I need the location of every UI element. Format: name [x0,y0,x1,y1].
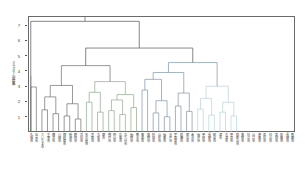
leaf-label: 神戸市 [107,133,110,142]
leaf-label: 川崎市 [57,133,60,142]
leaf-label: 松山市 [268,133,271,142]
dendrogram-link [164,117,170,132]
leaf-label: 岐阜市 [213,133,216,142]
dendrogram-link [231,116,237,132]
dendrogram-link [187,111,193,132]
leaf-label: 福島市 [163,133,166,142]
leaf-label: 仙台市 [35,133,38,142]
y-axis-tick-label: 7 [12,23,20,28]
dendrogram-link [86,102,92,132]
dendrogram-link [67,104,78,119]
dendrogram-link [209,115,215,132]
dendrogram-link [131,108,137,132]
leaf-label: 堺市 [102,133,105,139]
leaf-label: 相模原市 [63,133,66,145]
dendrogram-link [86,48,193,66]
leaf-label: 大阪市 [96,133,99,142]
leaf-label: 前橋市 [179,133,182,142]
dendrogram-tree [28,16,295,132]
leaf-label: 横浜市 [51,133,54,142]
y-axis-tick-mark [25,55,27,56]
y-axis-tick-label: 6 [12,38,20,43]
dendrogram-link [50,85,72,103]
dendrogram-link [42,110,48,132]
leaf-label: 札幌市 [29,133,32,142]
leaf-label: 新潟市 [68,133,71,142]
leaf-label: 広島市 [118,133,121,142]
leaf-label: 千葉市 [46,133,49,142]
dendrogram-link [198,109,204,132]
y-axis-tick-label: 4 [12,68,20,73]
dendrogram-link [223,102,234,116]
dendrogram-link [142,90,148,132]
y-axis-tick-label: 1 [12,114,20,119]
dendrogram-link [75,119,81,132]
plot-area [28,16,295,132]
leaf-label: 長野市 [207,133,210,142]
leaf-label: 和歌山市 [235,133,238,145]
dendrogram-link [45,97,56,114]
leaf-label: 高松市 [263,133,266,142]
y-axis-tick-mark [25,86,27,87]
leaf-label: 那覇市 [291,133,294,142]
leaf-label: 大津市 [224,133,227,142]
y-axis-tick-label: 5 [12,53,20,58]
leaf-label: 名古屋市 [85,133,88,145]
y-axis-tick-mark [25,116,27,117]
dendrogram-link [31,87,37,132]
leaf-label: 甲府市 [202,133,205,142]
leaf-label: 高知市 [274,133,277,142]
dendrogram-link [64,116,70,132]
leaf-label: 奈良市 [229,133,232,142]
leaf-label: 津市 [218,133,221,139]
leaf-label: 松江市 [246,133,249,142]
dendrogram-link [168,63,217,87]
leaf-label: 富山市 [185,133,188,142]
dendrogram-figure: クラスター間距離 1234567 札幌市仙台市さいたま市千葉市横浜市川崎市相模原… [0,0,305,176]
dendrogram-link [153,113,159,132]
dendrogram-link [53,114,59,132]
dendrogram-link [206,86,228,102]
leaf-label: 熊本市 [135,133,138,142]
leaf-label: 水戸市 [168,133,171,142]
leaf-label: 長崎市 [285,133,288,142]
leaf-label: 岡山市 [113,133,116,142]
y-axis-tick-mark [25,40,27,41]
leaf-label: 山形市 [157,133,160,142]
dendrogram-link [109,111,115,132]
dendrogram-link [178,93,189,111]
dendrogram-link [111,100,122,115]
leaf-label: 山口市 [252,133,255,142]
leaf-label: 北九州市 [124,133,127,145]
leaf-label: 宇都宮市 [174,133,177,145]
leaf-label-group: 札幌市仙台市さいたま市千葉市横浜市川崎市相模原市新潟市静岡市浜松市名古屋市京都市… [28,132,295,162]
dendrogram-link [98,112,104,132]
leaf-label: 盛岡市 [146,133,149,142]
dendrogram-link [117,95,134,108]
leaf-label: 徳島市 [257,133,260,142]
leaf-label: さいたま市 [40,133,43,148]
leaf-label: 浜松市 [79,133,82,142]
y-axis-tick-label: 2 [12,99,20,104]
dendrogram-link [200,98,211,115]
dendrogram-link [61,66,110,86]
leaf-label: 福井市 [196,133,199,142]
leaf-label: 青森市 [140,133,143,142]
dendrogram-link [175,106,181,132]
y-axis-tick-mark [25,70,27,71]
leaf-label: 福岡市 [129,133,132,142]
dendrogram-link [120,114,126,132]
dendrogram-link [153,72,184,93]
dendrogram-link [156,101,167,117]
leaf-label: 金沢市 [191,133,194,142]
leaf-label: 秋田市 [152,133,155,142]
y-axis-tick-mark [25,101,27,102]
leaf-label: 鳥取市 [241,133,244,142]
leaf-label: 京都市 [90,133,93,142]
leaf-label: 静岡市 [74,133,77,142]
y-axis-tick-label: 3 [12,84,20,89]
y-axis-tick-mark [25,25,27,26]
dendrogram-link [220,112,226,132]
leaf-label: 佐賀市 [280,133,283,142]
